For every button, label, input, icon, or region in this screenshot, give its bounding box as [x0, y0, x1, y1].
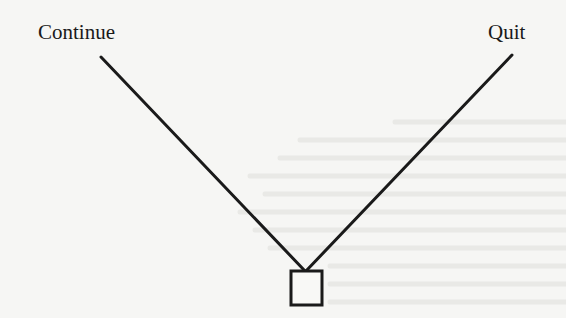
branch-line-continue	[101, 57, 305, 271]
diagram-page: Continue Quit	[0, 0, 566, 318]
decision-tree	[0, 0, 566, 318]
branch-line-quit	[306, 55, 512, 271]
decision-node-square	[291, 271, 322, 305]
